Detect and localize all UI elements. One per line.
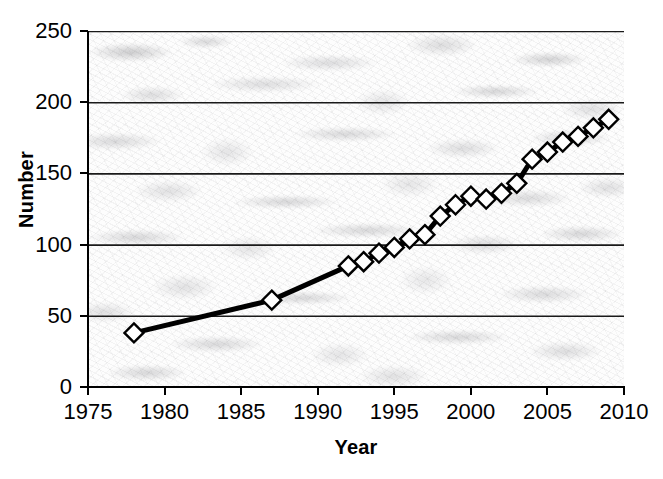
data-point-marker bbox=[124, 323, 143, 342]
x-tick-mark-2005 bbox=[546, 387, 548, 395]
y-tick-mark-100 bbox=[80, 244, 88, 246]
y-tick-mark-150 bbox=[80, 172, 88, 174]
y-tick-mark-250 bbox=[80, 30, 88, 32]
chart-figure: 050100150200250 197519801985199019952000… bbox=[0, 0, 663, 479]
data-point-marker bbox=[262, 291, 281, 310]
x-tick-mark-1990 bbox=[317, 387, 319, 395]
y-tick-label-200: 200 bbox=[0, 91, 72, 113]
x-tick-mark-2000 bbox=[470, 387, 472, 395]
x-tick-mark-2010 bbox=[623, 387, 625, 395]
x-axis-line bbox=[88, 386, 625, 388]
y-axis-line bbox=[87, 31, 89, 388]
y-tick-label-50: 50 bbox=[0, 305, 72, 327]
y-tick-label-0: 0 bbox=[0, 376, 72, 398]
y-tick-label-250: 250 bbox=[0, 20, 72, 42]
series-markers bbox=[124, 110, 618, 343]
x-tick-mark-1980 bbox=[164, 387, 166, 395]
x-tick-mark-1985 bbox=[240, 387, 242, 395]
x-tick-label-2010: 2010 bbox=[579, 401, 663, 423]
gridlines bbox=[88, 32, 624, 388]
y-axis-title: Number bbox=[15, 140, 38, 240]
y-tick-mark-200 bbox=[80, 101, 88, 103]
x-tick-mark-1975 bbox=[87, 387, 89, 395]
y-tick-mark-50 bbox=[80, 315, 88, 317]
series-canvas bbox=[88, 31, 624, 387]
x-tick-mark-1995 bbox=[393, 387, 395, 395]
x-axis-title: Year bbox=[88, 436, 624, 459]
plot-area bbox=[88, 31, 624, 387]
